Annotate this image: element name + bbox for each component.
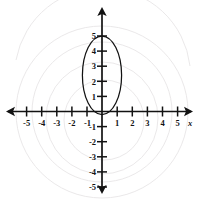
y-tick-label--2: -2 bbox=[89, 137, 96, 147]
x-tick-label--3: -3 bbox=[53, 118, 60, 128]
x-tick-label-3: 3 bbox=[145, 118, 149, 128]
y-tick-label-1: 1 bbox=[92, 92, 96, 102]
coordinate-plane: -5 -4 -3 -2 -1 1 2 3 4 5 5 4 3 2 1 -1 -2… bbox=[0, 0, 199, 200]
y-tick-label-2: 2 bbox=[92, 77, 96, 87]
x-tick-label-2: 2 bbox=[130, 118, 134, 128]
scan-artifact-arcs bbox=[16, 0, 190, 198]
y-tick-label--5: -5 bbox=[89, 182, 96, 192]
x-tick-label-1: 1 bbox=[115, 118, 119, 128]
x-tick-label--4: -4 bbox=[38, 118, 46, 128]
y-tick-label--3: -3 bbox=[89, 152, 96, 162]
graph-figure: -5 -4 -3 -2 -1 1 2 3 4 5 5 4 3 2 1 -1 -2… bbox=[0, 0, 199, 200]
x-axis-label: x bbox=[187, 118, 193, 128]
x-tick-label--2: -2 bbox=[68, 118, 75, 128]
x-tick-label-5: 5 bbox=[175, 118, 179, 128]
axis-arrowheads bbox=[6, 7, 193, 194]
y-tick-label--1: -1 bbox=[89, 122, 96, 132]
x-tick-label--5: -5 bbox=[23, 118, 30, 128]
x-tick-label-4: 4 bbox=[160, 118, 165, 128]
y-tick-label--4: -4 bbox=[89, 167, 97, 177]
y-tick-label-4: 4 bbox=[92, 46, 97, 56]
y-tick-label-3: 3 bbox=[92, 61, 96, 71]
